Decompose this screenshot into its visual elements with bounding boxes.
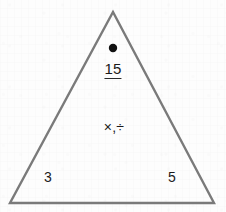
worksheet-figure-page: 15 ×,÷ 3 5 bbox=[0, 0, 226, 212]
left-factor-value: 3 bbox=[44, 170, 52, 184]
right-factor-value: 5 bbox=[168, 170, 176, 184]
triangle-outline bbox=[10, 12, 214, 203]
apex-dot-icon bbox=[109, 44, 117, 52]
operators-label: ×,÷ bbox=[104, 120, 124, 134]
triangle-figure bbox=[0, 0, 226, 212]
product-value: 15 bbox=[104, 61, 121, 79]
